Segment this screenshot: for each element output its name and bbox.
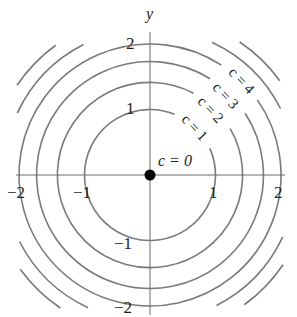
level-curve-c6 — [17, 45, 56, 85]
y-axis-label: y — [144, 5, 154, 23]
level-curve-c6 — [244, 265, 283, 305]
y-tick-label: 2 — [126, 34, 135, 53]
level-curve-c5 — [216, 237, 282, 306]
y-tick-label: 1 — [126, 99, 135, 118]
x-tick-label: 2 — [274, 183, 283, 202]
level-label-c0: c = 0 — [158, 152, 192, 169]
level-curve-c5 — [17, 45, 83, 114]
level-curve-c6 — [20, 269, 60, 308]
x-tick-label: −2 — [7, 183, 25, 202]
contour-plot: y −2 −1 1 2 2 1 −1 −2 c = 0 c = 1 c = 2 … — [0, 0, 297, 317]
x-tick-label: −1 — [73, 183, 91, 202]
level-curve-c5 — [20, 241, 89, 307]
y-tick-label: −1 — [114, 234, 132, 253]
y-tick-label: −2 — [114, 298, 132, 317]
x-tick-label: 1 — [209, 183, 218, 202]
origin-point — [145, 170, 156, 181]
